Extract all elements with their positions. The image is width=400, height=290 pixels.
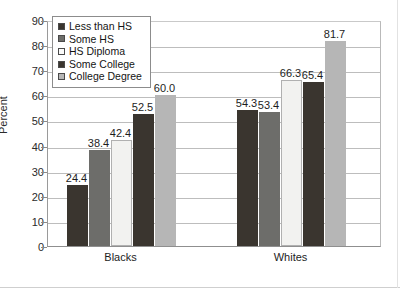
category-label-whites: Whites: [231, 251, 351, 263]
y-axis-title: Percent: [0, 96, 9, 134]
bar-blacks-college-degree: [155, 95, 176, 246]
legend-item-label: HS Diploma: [69, 46, 125, 57]
legend-item-college-degree[interactable]: College Degree: [58, 70, 145, 83]
category-label-blacks: Blacks: [61, 251, 181, 263]
legend-item-label: College Degree: [69, 71, 142, 82]
bar-whites-some-hs: [259, 112, 280, 246]
value-label-blacks-some-college: 52.5: [123, 101, 163, 113]
value-label-blacks-hs-diploma: 42.4: [101, 127, 141, 139]
bar-blacks-hs-diploma: [111, 140, 132, 246]
value-label-whites-some-hs: 53.4: [249, 99, 289, 111]
legend-item-label: Less than HS: [69, 21, 132, 32]
page-frame-bottom: [0, 287, 400, 288]
legend-swatch-icon: [58, 23, 65, 30]
legend-item-some-college[interactable]: Some College: [58, 58, 145, 71]
page-frame-right: [397, 0, 398, 288]
bar-blacks-less-than-hs: [67, 185, 88, 246]
legend-item-label: Some College: [69, 59, 135, 70]
legend-item-hs-diploma[interactable]: HS Diploma: [58, 45, 145, 58]
legend-item-label: Some HS: [69, 34, 114, 45]
value-label-blacks-less-than-hs: 24.4: [57, 172, 97, 184]
legend-swatch-icon: [58, 48, 65, 55]
value-label-whites-some-college: 65.4: [293, 69, 333, 81]
bar-blacks-some-hs: [89, 150, 110, 246]
legend-item-less-than-hs[interactable]: Less than HS: [58, 20, 145, 33]
bar-whites-less-than-hs: [237, 110, 258, 246]
legend-swatch-icon: [58, 61, 65, 68]
value-label-whites-college-degree: 81.7: [315, 28, 355, 40]
bar-whites-some-college: [303, 82, 324, 246]
bar-chart-figure: Percent 9080706050403020100 24.438.442.4…: [0, 0, 400, 290]
legend: Less than HSSome HSHS DiplomaSome Colleg…: [52, 16, 151, 88]
legend-swatch-icon: [58, 35, 65, 42]
y-tick-mark-0: [41, 247, 47, 248]
legend-item-some-hs[interactable]: Some HS: [58, 33, 145, 46]
legend-swatch-icon: [58, 73, 65, 80]
